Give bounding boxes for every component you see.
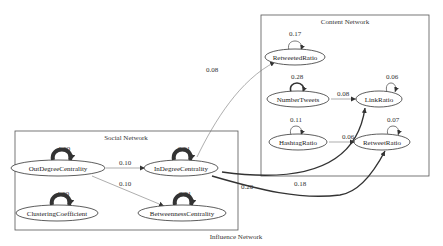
node-numbertweets[interactable]: NumberTweets [267,91,329,107]
graph-title: Influence Network [210,233,263,241]
loop-betweenness: 0.81 [175,190,192,205]
loop-linkratio: 0.06 [386,73,399,92]
svg-text:RetweetRatio: RetweetRatio [363,139,402,147]
influence-network-diagram: Content Network Social Network 0.08 0.20… [0,0,443,246]
edge-label: 0.18 [294,180,307,188]
node-betweennesscentrality[interactable]: BetweennessCentrality [138,205,226,221]
svg-text:RetweetedRatio: RetweetedRatio [273,54,318,62]
edge-outdegree-indegree: 0.10 [106,159,145,168]
svg-text:0.81: 0.81 [179,190,192,198]
svg-text:1.00: 1.00 [57,190,70,198]
node-indegreecentrality[interactable]: InDegreeCentrality [144,160,218,176]
edge-label: 0.08 [206,66,219,74]
svg-text:0.11: 0.11 [290,116,302,124]
edge-numbertweets-linkratio: 0.08 [331,90,356,99]
loop-retweetratio: 0.07 [387,116,400,135]
svg-text:0.28: 0.28 [291,73,304,81]
svg-text:InDegreeCentrality: InDegreeCentrality [154,165,209,173]
edge-outdegree-betweenness: 0.10 [92,176,164,206]
svg-text:NumberTweets: NumberTweets [277,96,320,104]
edge-label: 0.10 [119,180,132,188]
node-hashtagratio[interactable]: HashtagRatio [269,134,327,150]
node-retweetedratio[interactable]: RetweetedRatio [265,49,325,65]
loop-retweetedratio: 0.17 [288,30,301,50]
node-retweetratio[interactable]: RetweetRatio [354,134,410,150]
edge-label: 0.08 [337,90,350,98]
loop-hashtagratio: 0.11 [290,116,302,135]
node-clusteringcoefficient[interactable]: ClusteringCoefficient [16,205,98,221]
edge-hashtag-retweetratio: 0.06 [329,133,355,142]
edge-label: 0.06 [342,133,355,141]
svg-text:0.17: 0.17 [289,30,302,38]
svg-text:HashtagRatio: HashtagRatio [279,139,318,147]
loop-numbertweets: 0.28 [290,73,303,92]
edge-label: 0.10 [119,159,132,167]
content-network-label: Content Network [321,18,370,26]
svg-text:OutDegreeCentrality: OutDegreeCentrality [29,165,88,173]
svg-text:0.91: 0.91 [178,145,191,153]
loop-outdegree: 1.00 [53,145,71,160]
svg-text:1.00: 1.00 [58,145,71,153]
svg-text:LinkRatio: LinkRatio [365,96,394,104]
edge-indegree-retweetedratio: 0.08 [197,62,275,157]
node-linkratio[interactable]: LinkRatio [356,91,402,107]
loop-clustering: 1.00 [52,190,70,205]
svg-text:0.07: 0.07 [387,116,400,124]
svg-text:0.06: 0.06 [386,73,399,81]
social-network-label: Social Network [104,134,148,142]
loop-indegree: 0.91 [174,145,191,160]
svg-text:BetweennessCentrality: BetweennessCentrality [150,210,215,218]
svg-text:ClusteringCoefficient: ClusteringCoefficient [27,210,88,218]
node-outdegreecentrality[interactable]: OutDegreeCentrality [11,160,105,176]
